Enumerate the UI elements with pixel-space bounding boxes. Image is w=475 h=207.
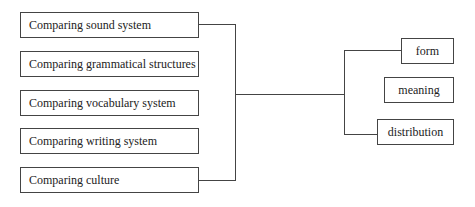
box-label: Comparing vocabulary system <box>29 96 176 111</box>
connector-to-form <box>344 50 402 51</box>
box-meaning: meaning <box>384 77 454 103</box>
box-label: Comparing sound system <box>29 18 151 33</box>
box-writing-system: Comparing writing system <box>20 128 199 154</box>
box-distribution: distribution <box>377 119 454 145</box>
box-label: meaning <box>398 83 439 98</box>
connector-middle-horizontal <box>235 94 345 95</box>
box-culture: Comparing culture <box>20 167 199 193</box>
connector-bottom-horizontal <box>198 180 236 181</box>
connector-to-distribution <box>344 134 378 135</box>
box-vocabulary-system: Comparing vocabulary system <box>20 90 199 116</box>
connector-left-vertical <box>235 24 236 181</box>
box-label: Comparing culture <box>29 173 119 188</box>
box-sound-system: Comparing sound system <box>20 12 199 38</box>
box-label: Comparing writing system <box>29 134 157 149</box>
box-label: form <box>416 44 439 59</box>
box-label: Comparing grammatical structures <box>29 57 196 72</box>
box-grammatical-structures: Comparing grammatical structures <box>20 51 199 77</box>
connector-top-horizontal <box>198 24 236 25</box>
connector-right-vertical <box>344 50 345 135</box>
box-form: form <box>401 38 454 64</box>
box-label: distribution <box>388 125 443 140</box>
